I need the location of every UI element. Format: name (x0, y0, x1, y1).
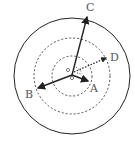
dotted-segment-1 (76, 67, 82, 72)
middle-dashed-circle (34, 38, 110, 114)
vector-c (72, 17, 87, 75)
vector-a (72, 75, 88, 81)
inner-dashed-circle (52, 56, 92, 96)
diagram-canvas (0, 0, 135, 147)
label-d: D (110, 52, 119, 63)
dotted-segment-2 (77, 73, 82, 74)
vector-b (38, 75, 72, 88)
outer-circle (14, 18, 130, 134)
label-b: B (25, 89, 33, 100)
point-marker-1 (66, 68, 69, 71)
label-a: A (90, 83, 98, 94)
vector-d-dotted (74, 58, 106, 72)
point-marker-2 (70, 76, 73, 79)
label-c: C (86, 2, 94, 13)
